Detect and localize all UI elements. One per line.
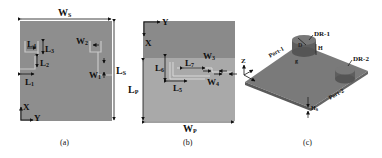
caption-a: (a) (60, 139, 69, 147)
panel-a-substrate (20, 19, 114, 121)
l5-label: L5 (173, 84, 182, 93)
figure-graphics (0, 0, 382, 158)
dr2-label: DR-2 (353, 56, 369, 63)
h-label: H (318, 45, 323, 51)
l2-label: L2 (40, 59, 49, 68)
l6-label: L6 (155, 64, 164, 73)
w2-label: W2 (76, 37, 88, 46)
w1-label: W1 (89, 71, 101, 80)
axis-y-label: Y (34, 114, 41, 123)
l4-label: L4 (27, 40, 36, 49)
hs-label: Hs (311, 105, 318, 112)
lp-label: LP (128, 85, 138, 95)
axis-x-label: X (145, 39, 152, 48)
ls-label: LS (116, 66, 126, 76)
l1-label: L1 (25, 78, 34, 87)
caption-b: (b) (183, 139, 192, 147)
g-label: g (295, 58, 298, 64)
caption-c: (c) (303, 139, 312, 147)
l7-label: L7 (185, 59, 194, 68)
w3-label: W3 (203, 52, 215, 61)
axis-y-label: Y (162, 18, 169, 27)
d-label: D (298, 42, 302, 48)
wp-label: WP (183, 124, 197, 134)
w4-label: W4 (207, 78, 219, 87)
dr1-label: DR-1 (314, 31, 330, 38)
panel-c-3d (244, 35, 368, 118)
ws-label: WS (58, 8, 71, 18)
axis-x-label: X (23, 103, 30, 112)
l3-label: L3 (45, 45, 54, 54)
axis-z-label: Z (241, 58, 246, 65)
